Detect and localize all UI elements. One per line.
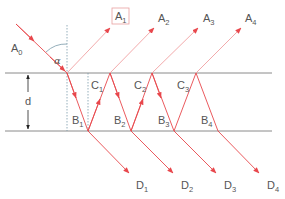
- label-d4: D4: [267, 179, 279, 194]
- label-b1: B1: [72, 114, 84, 129]
- label-a4: A4: [245, 12, 257, 27]
- internal-arrow-3: [110, 73, 119, 98]
- label-d3: D3: [224, 179, 236, 194]
- label-a2: A2: [158, 12, 170, 27]
- transmitted-ray-d4: [218, 131, 259, 173]
- label-a0: A0: [11, 42, 23, 57]
- label-c3: C3: [177, 79, 189, 94]
- label-d1: D1: [136, 179, 148, 194]
- label-c2: C2: [134, 79, 146, 94]
- label-d2: D2: [181, 179, 193, 194]
- label-a3: A3: [203, 12, 215, 27]
- label-b3: B3: [158, 114, 170, 129]
- internal-arrow-1: [67, 73, 76, 98]
- transmitted-ray-d2: [131, 131, 173, 173]
- reflected-ray-a2: [110, 28, 154, 73]
- thin-film-diagram: A0 α d A1 A2 A3 A4 C1 C2 C3 B1 B2 B3 B4 …: [0, 0, 285, 199]
- angle-arc: [46, 44, 67, 52]
- label-b4: B4: [201, 114, 213, 129]
- internal-arrow-4: [131, 99, 143, 131]
- label-c1: C1: [91, 79, 103, 94]
- transmitted-ray-d1: [88, 131, 129, 173]
- internal-zigzag: [67, 73, 218, 131]
- label-alpha: α: [54, 55, 61, 66]
- label-a1: A1: [115, 10, 127, 25]
- reflected-ray-a4: [196, 28, 241, 73]
- label-d: d: [25, 95, 31, 107]
- incident-arrow-1: [16, 24, 34, 41]
- transmitted-ray-d3: [174, 131, 216, 173]
- label-b2: B2: [114, 114, 126, 129]
- reflected-ray-a3: [152, 28, 198, 73]
- internal-arrow-2: [88, 99, 100, 131]
- reflected-ray-a1: [67, 28, 110, 73]
- internal-arrow-5: [152, 73, 161, 98]
